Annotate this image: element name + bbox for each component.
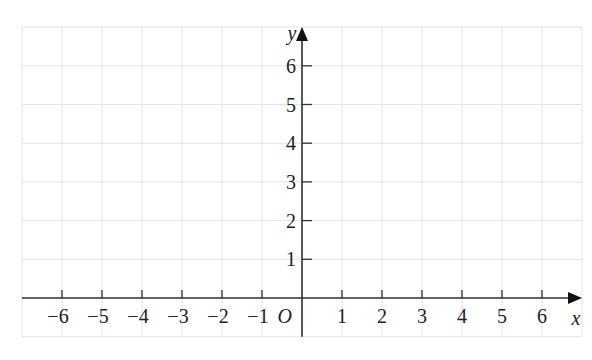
y-axis-label: y xyxy=(286,22,297,45)
x-axis-label: x xyxy=(571,307,581,329)
y-tick-label: 3 xyxy=(286,171,296,193)
x-tick-label: 4 xyxy=(457,305,467,327)
y-tick-label: 5 xyxy=(286,94,296,116)
y-axis-arrow-icon xyxy=(296,27,308,41)
y-tick-label: 1 xyxy=(286,248,296,270)
x-tick-label: 5 xyxy=(497,305,507,327)
x-tick-label: 2 xyxy=(377,305,387,327)
tick-labels: −6−5−4−3−2−1123456123456Oxy xyxy=(47,22,580,329)
x-tick-label: 1 xyxy=(337,305,347,327)
x-tick-label: −2 xyxy=(207,305,228,327)
x-tick-label: −4 xyxy=(127,305,148,327)
x-tick-label: 6 xyxy=(537,305,547,327)
x-tick-label: −3 xyxy=(167,305,188,327)
y-tick-label: 2 xyxy=(286,210,296,232)
x-tick-label: −1 xyxy=(247,305,268,327)
coordinate-plane: −6−5−4−3−2−1123456123456Oxy xyxy=(0,0,592,360)
x-axis-arrow-icon xyxy=(568,292,582,304)
x-tick-label: −6 xyxy=(47,305,68,327)
x-tick-label: 3 xyxy=(417,305,427,327)
y-tick-label: 6 xyxy=(286,55,296,77)
origin-label: O xyxy=(278,305,292,327)
x-tick-label: −5 xyxy=(87,305,108,327)
y-tick-label: 4 xyxy=(286,132,296,154)
